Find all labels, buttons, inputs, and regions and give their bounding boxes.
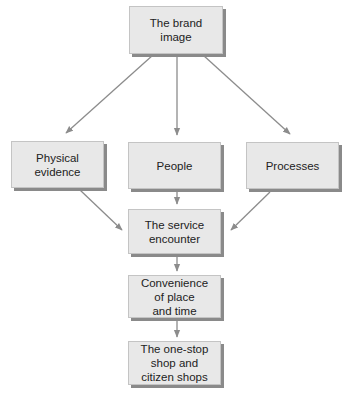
node-processes: Processes bbox=[246, 142, 339, 189]
node-one-stop-shop: The one-stop shop and citizen shops bbox=[128, 341, 221, 385]
node-convenience: Convenience of place and time bbox=[128, 275, 221, 318]
node-brand-image: The brand image bbox=[129, 6, 223, 54]
node-people: People bbox=[128, 142, 221, 189]
arrow-brand-to-physical bbox=[66, 55, 153, 133]
arrow-brand-to-processes bbox=[203, 55, 290, 134]
arrow-processes-to-service bbox=[231, 192, 270, 230]
node-service-encounter: The service encounter bbox=[128, 209, 221, 254]
arrows-layer bbox=[0, 0, 347, 399]
node-physical-evidence: Physical evidence bbox=[11, 141, 104, 188]
arrow-physical-to-service bbox=[80, 190, 122, 230]
